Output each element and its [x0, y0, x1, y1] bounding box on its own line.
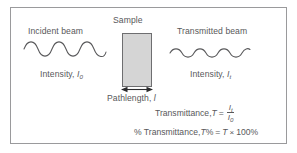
incident-wave-icon [24, 42, 106, 57]
percent-transmittance-right-symbol: T [222, 127, 227, 137]
transmittance-numerator: It [228, 104, 234, 113]
percent-transmittance-equals: = [215, 127, 220, 137]
transmittance-fraction: It I0 [227, 104, 235, 122]
percent-transmittance-label: % Transmittance, [134, 127, 200, 137]
transmittance-formula: Transmittance, T = It I0 [155, 104, 235, 122]
transmittance-equals: = [219, 108, 224, 118]
transmittance-numerator-subscript: t [231, 106, 233, 113]
transmittance-diagram: Incident beam Intensity, I0 Sample Pathl… [0, 0, 297, 153]
percent-transmittance-percent-sign: % [206, 127, 214, 137]
transmittance-denominator-subscript: 0 [230, 116, 233, 123]
transmittance-denominator: I0 [227, 112, 235, 122]
multiplication-sign: × [230, 128, 235, 137]
percent-transmittance-value: 100% [236, 127, 258, 137]
percent-transmittance-formula: % Transmittance, T % = T × 100% [134, 127, 258, 137]
pathlength-arrow-icon [121, 87, 153, 93]
transmitted-wave-icon [170, 49, 250, 57]
transmittance-symbol: T [212, 108, 217, 118]
transmittance-label: Transmittance, [155, 108, 212, 118]
